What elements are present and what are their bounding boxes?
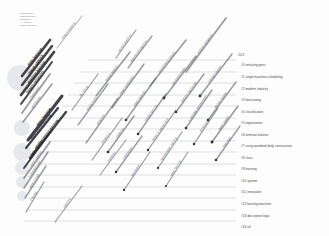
legend-item-13[interactable]: #13 description logic [236,210,329,222]
legend-item-2[interactable]: #2 modern industry [236,83,329,95]
legend-item-label: #14 rol [241,226,251,229]
cluster-label: knowledge representation [187,94,208,122]
legend-item-label: #5 organization [241,122,263,125]
cluster-node-dot[interactable] [185,127,188,130]
legend-item-label: #1 single machine scheduling [241,76,282,79]
cluster-node-dot[interactable] [193,143,195,145]
cluster-line[interactable]: algorithm [55,186,82,222]
legend-item-3[interactable]: #3 forecasting [236,95,329,107]
legend-item-label: #9 learning [241,168,257,171]
cluster-node-dot[interactable] [125,119,128,122]
cluster-label: image processing [60,21,76,40]
legend-item-8[interactable]: #8 class [236,153,329,165]
cluster-label: scheduling [100,131,111,144]
legend-item-label: #10 system [241,180,257,183]
cluster-line[interactable]: image processing [57,16,82,48]
cluster-label: feature selection [104,63,120,81]
cluster-node-dot[interactable] [123,189,125,191]
cluster-node-dot[interactable] [115,171,117,173]
cluster-bubble [14,120,30,136]
metadata-line: window 2016-2019 [20,24,60,27]
legend-item-label: #13 description logic [241,215,270,218]
legend-item-5[interactable]: #5 organization [236,118,329,130]
cluster-node-dot[interactable] [165,185,167,187]
cluster-node-dot[interactable] [207,119,210,122]
legend-rows: #0 retracing gens#1 single machine sched… [236,60,329,233]
cluster-node-dot[interactable] [147,149,149,151]
legend-item-4[interactable]: #4 classification [236,106,329,118]
legend-item-7[interactable]: #7 using woodend daily construction [236,141,329,153]
cluster-label: fuzzy logic [221,135,232,148]
cluster-line[interactable]: genetic algorithm [116,30,136,58]
cluster-node-dot[interactable] [157,167,159,169]
cluster-label: semantic segmentation [151,116,170,141]
cluster-label: intelligent system [207,64,223,83]
legend-item-12[interactable]: #12 learning machine [236,199,329,211]
cluster-node-dot[interactable] [199,95,202,98]
legend-item-label: #0 retracing gens [241,64,265,67]
cluster-bubble [16,176,28,188]
cluster-node-dot[interactable] [107,151,110,154]
legend-item-label: #8 class [241,157,253,160]
cluster-label: convolutional network [157,50,176,73]
cluster-label: expert system [217,114,230,131]
cluster-line[interactable]: convolutional network [150,40,186,86]
legend-item-label: #12 learning machine [241,203,271,206]
cluster-line[interactable]: graph learning [165,152,188,187]
legend-item-9[interactable]: #9 learning [236,164,329,176]
cluster-label: object detection [132,89,146,107]
cluster-label: representation learning [159,136,178,162]
legend-item-0[interactable]: #0 retracing gens [236,60,329,72]
legend-item-10[interactable]: #10 system [236,176,329,188]
legend-item-label: #2 modern industry [241,88,268,91]
cluster-label: artificial intelligence [196,33,213,55]
cluster-label: recognition [95,112,106,125]
cluster-node-dot[interactable] [210,140,213,143]
legend-item-label: #7 using woodend daily construction [241,145,292,148]
legend-item-label: #6 terminal solution [241,134,268,137]
cluster-line-layer: image processingdeep learningneural netw… [21,16,240,222]
legend-item-1[interactable]: #1 single machine scheduling [236,72,329,84]
legend-item-6[interactable]: #6 terminal solution [236,129,329,141]
cluster-label: algorithm [62,197,72,209]
legend-item-11[interactable]: #11 innovation [236,187,329,199]
cluster-line[interactable]: artificial intelligence [186,18,226,72]
legend-item-14[interactable]: #14 rol [236,222,329,234]
cluster-node-dot[interactable] [137,133,140,136]
topic-legend: 2019 #0 retracing gens#1 single machine … [236,54,329,233]
cluster-line[interactable]: evolutionary algorithm [128,36,152,68]
cluster-label: genetic algorithm [117,33,133,53]
diagram-canvas: image processingdeep learningneural netw… [0,0,329,236]
legend-item-label: #3 forecasting [241,99,261,102]
cluster-label: classification [121,145,133,160]
cluster-label: generative model [171,66,187,85]
cluster-node-dot[interactable] [215,159,218,162]
cluster-line[interactable]: text mining [72,74,98,110]
legend-item-label: #11 innovation [241,191,261,194]
legend-year: 2019 [236,54,329,57]
cluster-label: attention mechanism [180,80,198,103]
cluster-node-dot[interactable] [163,97,166,100]
cluster-label: evolutionary algorithm [129,39,148,63]
cluster-label: text mining [78,84,89,97]
cluster-node-dot[interactable] [175,111,178,114]
cluster-label: graph learning [169,159,182,176]
cluster-label: segmentation [85,95,98,111]
legend-item-label: #4 classification [241,111,263,114]
metadata-block: Topic EvolutionClustering ResultThemeRiv… [20,12,60,27]
cluster-label: image classification [118,74,135,96]
